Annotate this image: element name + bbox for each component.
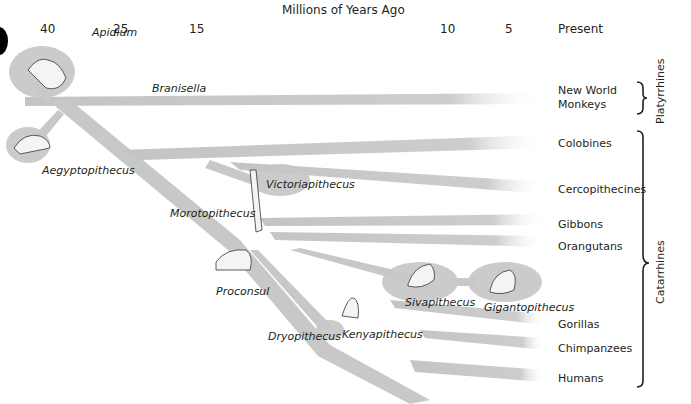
group-label-line2: Monkeys bbox=[558, 98, 617, 112]
taxon-dryopithecus: Dryopithecus bbox=[268, 330, 341, 343]
taxon-apidium: Apidium bbox=[92, 26, 137, 39]
taxon-aegyptopithecus: Aegyptopithecus bbox=[42, 164, 135, 177]
taxon-morotopithecus: Morotopithecus bbox=[170, 207, 255, 220]
platyrrhines-bracket bbox=[637, 82, 647, 114]
group-orangutans: Orangutans bbox=[558, 240, 623, 254]
group-humans: Humans bbox=[558, 372, 603, 386]
taxon-victoriapithecus: Victoriapithecus bbox=[266, 178, 355, 191]
taxon-kenyapithecus: Kenyapithecus bbox=[342, 328, 423, 341]
clade-brackets bbox=[637, 82, 649, 387]
kenyapithecus-jaw-icon bbox=[342, 298, 359, 318]
group-label-line1: New World bbox=[558, 84, 617, 98]
group-gorillas: Gorillas bbox=[558, 318, 599, 332]
taxon-gigantopithecus: Gigantopithecus bbox=[484, 301, 574, 314]
taxon-sivapithecus: Sivapithecus bbox=[405, 296, 475, 309]
tick-5: 5 bbox=[505, 22, 513, 36]
clade-platyrrhines: Platyrrhines bbox=[654, 59, 667, 124]
tick-10: 10 bbox=[440, 22, 455, 36]
group-colobines: Colobines bbox=[558, 137, 612, 151]
group-new-world-monkeys: New World Monkeys bbox=[558, 84, 617, 112]
group-cercopithecines: Cercopithecines bbox=[558, 183, 646, 197]
axis-title: Millions of Years Ago bbox=[282, 3, 405, 17]
group-chimpanzees: Chimpanzees bbox=[558, 342, 632, 356]
group-gibbons: Gibbons bbox=[558, 218, 603, 232]
tick-40: 40 bbox=[40, 22, 55, 36]
tick-15: 15 bbox=[189, 22, 204, 36]
catarrhines-bracket bbox=[637, 131, 649, 387]
taxon-branisella: Branisella bbox=[152, 82, 206, 95]
clade-catarrhines: Catarrhines bbox=[654, 240, 667, 304]
tick-present: Present bbox=[558, 22, 603, 36]
taxon-proconsul: Proconsul bbox=[216, 285, 269, 298]
proconsul-skeleton-icon bbox=[216, 250, 251, 270]
